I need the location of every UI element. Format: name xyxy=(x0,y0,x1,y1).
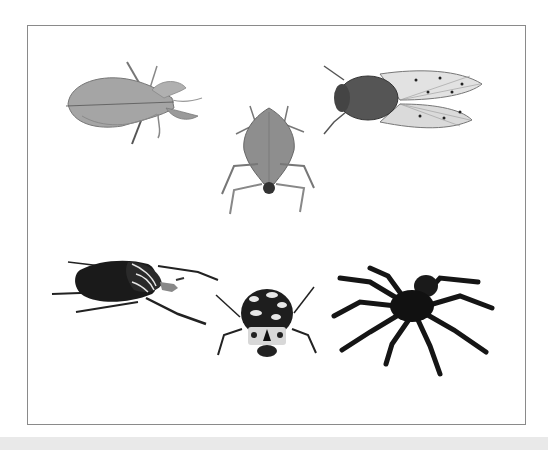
cicada-specimen xyxy=(320,62,490,142)
tarantula-specimen xyxy=(330,266,500,381)
bottom-band xyxy=(0,437,548,450)
spotted-beetle-specimen xyxy=(210,283,325,363)
goliath-beetle-specimen xyxy=(48,254,223,329)
leaf-footed-bug-specimen xyxy=(214,104,324,219)
leaf-insect-specimen xyxy=(62,58,212,148)
